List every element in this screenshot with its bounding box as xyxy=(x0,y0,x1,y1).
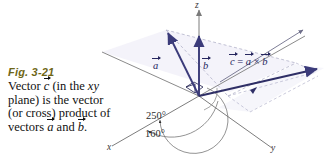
vector-a-label-text: a xyxy=(153,60,158,71)
caption-part-5: . xyxy=(84,120,87,134)
vector-c-equation-label: c = a × b xyxy=(230,56,268,67)
vector-b-label: b xyxy=(203,55,208,73)
vector-a-label: a xyxy=(153,55,158,73)
eq-b: b xyxy=(262,56,267,67)
figure-number: Fig. 3-21 xyxy=(8,66,112,79)
diagram-canvas xyxy=(100,0,326,165)
y-axis-label: y xyxy=(271,143,275,153)
caption-part-1: Vector xyxy=(8,79,44,93)
figure-caption: Fig. 3-21 Vector c (in the xy plane) is … xyxy=(8,66,112,134)
eq-equals: = xyxy=(235,56,246,67)
arc-250 xyxy=(160,88,228,153)
z-axis-label: z xyxy=(195,0,199,10)
x-axis-label: x xyxy=(107,142,111,152)
figure-page: Fig. 3-21 Vector c (in the xy plane) is … xyxy=(0,0,326,165)
caption-part-2: (in the xyxy=(49,79,88,93)
vector-cross-product-diagram: z x y a b c = a × b 250° 160° xyxy=(100,0,326,165)
figure-caption-text: Vector c (in the xy plane) is the vector… xyxy=(8,80,112,134)
caption-xy-plane: xy xyxy=(88,79,99,93)
vector-b-label-text: b xyxy=(203,60,208,71)
eq-a: a xyxy=(246,56,251,67)
vector-b-inline: b xyxy=(78,121,84,135)
eq-times: × xyxy=(251,56,262,67)
vector-a-inline: a xyxy=(47,121,53,135)
caption-part-4: and xyxy=(53,120,77,134)
plane-shading xyxy=(102,30,324,112)
eq-c: c xyxy=(230,56,235,67)
angle-label-250: 250° xyxy=(146,110,166,121)
vector-c-inline: c xyxy=(44,80,50,94)
angle-label-160: 160° xyxy=(145,128,165,139)
